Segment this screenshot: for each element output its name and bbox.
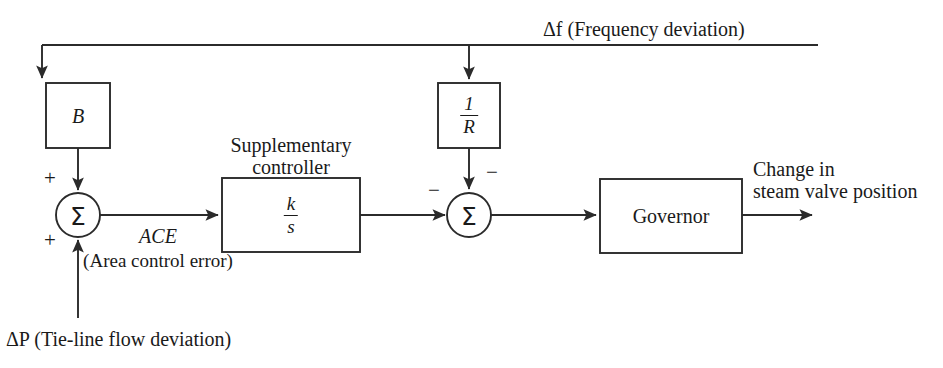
controller-transfer-function: k s <box>284 194 298 236</box>
left-sum-sigma-symbol: Σ <box>70 202 86 231</box>
block-diagram: B 1 R k s Governor Σ Σ + + − − Δf (Frequ… <box>0 0 943 368</box>
output-label-line1: Change in <box>753 158 835 180</box>
controller-denominator: s <box>284 217 298 236</box>
right-sum-sigma-symbol: Σ <box>461 202 477 231</box>
droop-denominator: R <box>460 117 478 136</box>
feedback-signal-label: Δf (Frequency deviation) <box>543 18 745 40</box>
gain-block-B-label: B <box>72 105 84 128</box>
supplementary-controller-caption-line1: Supplementary <box>230 134 351 156</box>
droop-numerator: 1 <box>460 94 478 113</box>
right-sum-minus-left: − <box>428 178 440 203</box>
ace-signal-label: ACE <box>139 225 177 247</box>
left-sum-plus-top: + <box>44 166 56 191</box>
ace-expansion-label: (Area control error) <box>83 250 233 271</box>
supplementary-controller-caption-line2: controller <box>252 156 330 178</box>
droop-block-fraction: 1 R <box>460 94 478 136</box>
left-sum-plus-bottom: + <box>44 228 56 253</box>
right-sum-minus-top: − <box>486 160 498 185</box>
controller-numerator: k <box>284 194 298 213</box>
tie-line-input-label: ΔP (Tie-line flow deviation) <box>6 328 231 350</box>
governor-block-label: Governor <box>633 205 710 228</box>
output-label-line2: steam valve position <box>753 180 917 202</box>
